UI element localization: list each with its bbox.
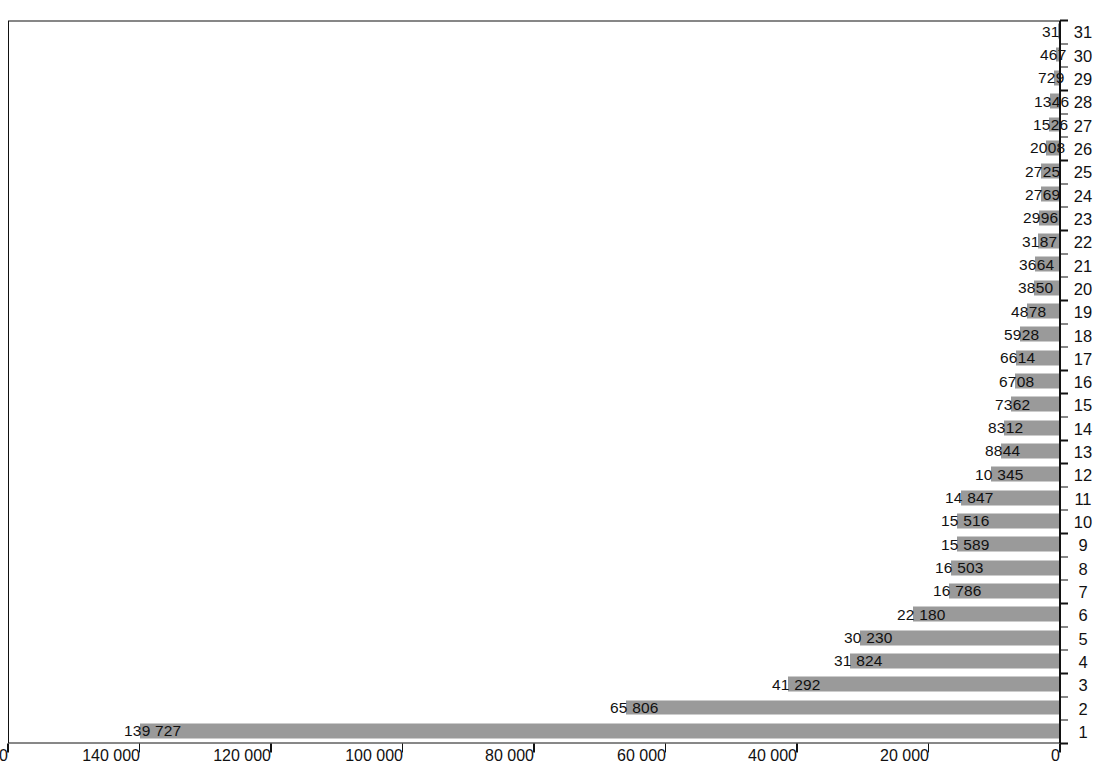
bar-slot: 3850 [9,276,1059,299]
rank-label: 18 [1071,324,1094,346]
value-tick-label: 80 000 [485,746,534,764]
rank-label: 7 [1071,580,1094,602]
bar-value-label: 139 727 [124,721,181,739]
bar-value-label: 3850 [1018,278,1053,296]
bar-value-label: 2996 [1023,208,1058,226]
rank-label: 12 [1071,464,1094,486]
bar-slot: 31 824 [9,649,1059,672]
bar [626,700,1059,715]
bar-value-label: 31 [1042,22,1060,40]
rank-label: 26 [1071,137,1094,159]
rank-label: 22 [1071,231,1094,253]
bar-slot: 15 516 [9,509,1059,532]
bar-value-label: 6614 [1000,348,1035,366]
value-tick-label: 160 000 [0,746,8,764]
bar-slot: 3664 [9,252,1059,275]
bar-value-label: 8844 [985,441,1020,459]
rank-label: 1 [1071,720,1094,742]
bar-value-label: 2725 [1025,162,1060,180]
rank-label: 5 [1071,627,1094,649]
rank-label: 29 [1071,67,1094,89]
plot-area: 139 72765 80641 29231 82430 23022 18016 … [8,20,1060,743]
bar-slot: 30 230 [9,625,1059,648]
bar-value-label: 5928 [1004,325,1039,343]
bar-slot: 2725 [9,159,1059,182]
rank-label: 23 [1071,207,1094,229]
rank-label: 14 [1071,417,1094,439]
bar-slot: 467 [9,42,1059,65]
bar-value-label: 6708 [999,372,1034,390]
bar-value-label: 15 516 [941,511,990,529]
rank-labels: 1234567891011121314151617181920212223242… [1072,20,1112,743]
rank-label: 9 [1071,534,1094,556]
bar-value-label: 4878 [1011,302,1046,320]
rank-label: 30 [1071,44,1094,66]
bar-series: 139 72765 80641 29231 82430 23022 18016 … [9,21,1059,742]
rank-label: 19 [1071,301,1094,323]
bar-slot: 14 847 [9,485,1059,508]
bar-slot: 2008 [9,136,1059,159]
bar-value-label: 31 824 [834,651,883,669]
value-tick-label: 120 000 [213,746,271,764]
bar-slot: 10 345 [9,462,1059,485]
rank-label: 2 [1071,697,1094,719]
bar-value-label: 3187 [1022,232,1057,250]
bar [788,676,1059,691]
bar-value-label: 15 589 [941,535,990,553]
bar-slot: 2769 [9,182,1059,205]
rank-label: 8 [1071,557,1094,579]
bar-value-label: 10 345 [975,465,1024,483]
bar-value-label: 7362 [995,395,1030,413]
rank-label: 3 [1071,674,1094,696]
rank-label: 13 [1071,440,1094,462]
value-axis-strip: 020 00040 00060 00080 000100 000120 0001… [8,743,1060,765]
bar-slot: 2996 [9,206,1059,229]
value-tick-label: 140 000 [82,746,140,764]
bar-slot: 16 503 [9,555,1059,578]
bar-slot: 8312 [9,416,1059,439]
bar-slot: 22 180 [9,602,1059,625]
rank-label: 31 [1071,21,1094,43]
rank-label: 25 [1071,161,1094,183]
bar-slot: 729 [9,66,1059,89]
rotated-figure: 139 72765 80641 29231 82430 23022 18016 … [0,0,1116,765]
rank-label: 24 [1071,184,1094,206]
rank-label: 6 [1071,604,1094,626]
rank-label: 28 [1071,91,1094,113]
rank-label: 16 [1071,371,1094,393]
bar-slot: 15 589 [9,532,1059,555]
bar-slot: 8844 [9,439,1059,462]
rank-label: 11 [1071,487,1094,509]
bar-slot: 3187 [9,229,1059,252]
bar-slot: 65 806 [9,695,1059,718]
rank-label: 4 [1071,650,1094,672]
bar-value-label: 41 292 [772,675,821,693]
bar-slot: 139 727 [9,719,1059,742]
bar-slot: 1346 [9,89,1059,112]
bar-value-label: 8312 [988,418,1023,436]
bar-slot: 5928 [9,322,1059,345]
bar-value-label: 65 806 [610,698,659,716]
bar-slot: 1526 [9,112,1059,135]
bar-slot: 31 [9,19,1059,42]
chart-canvas: 139 72765 80641 29231 82430 23022 18016 … [0,0,1116,765]
value-tick-label: 100 000 [345,746,403,764]
bar-slot: 4878 [9,299,1059,322]
bar-slot: 6708 [9,369,1059,392]
rank-label: 15 [1071,394,1094,416]
bar-slot: 16 786 [9,579,1059,602]
rank-label: 17 [1071,347,1094,369]
bar-value-label: 16 786 [933,581,982,599]
value-tick-label: 20 000 [880,746,929,764]
value-tick-label: 60 000 [617,746,666,764]
rank-label: 21 [1071,254,1094,276]
rank-label: 27 [1071,114,1094,136]
rank-label: 20 [1071,277,1094,299]
value-tick-label: 40 000 [748,746,797,764]
bar-value-label: 3664 [1019,255,1054,273]
bar-slot: 6614 [9,346,1059,369]
bar-slot: 7362 [9,392,1059,415]
bar-value-label: 22 180 [897,605,946,623]
value-tick-label: 0 [1051,746,1060,764]
bar-value-label: 14 847 [945,488,994,506]
